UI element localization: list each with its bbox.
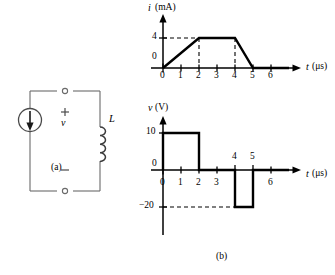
voltage-xtick-6: 6 bbox=[268, 178, 273, 188]
voltage-plot-xlabel-symbol: t bbox=[306, 169, 309, 179]
voltage-ytick-10: 10 bbox=[146, 127, 156, 137]
current-waveform bbox=[163, 38, 289, 68]
current-ytick-0: 0 bbox=[152, 52, 157, 62]
current-xtick-1: 1 bbox=[178, 71, 183, 81]
voltage-plot-ylabel-unit: (V) bbox=[155, 103, 168, 113]
voltage-xtick-3: 3 bbox=[214, 178, 219, 188]
panel-caption-b: (b) bbox=[216, 252, 227, 262]
y-axis-arrow-icon bbox=[159, 14, 166, 23]
figure-root: v L (a) bbox=[0, 0, 335, 275]
circuit-schematic bbox=[0, 75, 130, 255]
inductor-symbol bbox=[100, 127, 106, 161]
current-xtick-0: 0 bbox=[160, 71, 165, 81]
current-plot-axes bbox=[151, 14, 301, 72]
current-xtick-2: 2 bbox=[196, 71, 201, 81]
current-xtick-6: 6 bbox=[268, 71, 273, 81]
terminal-top bbox=[62, 88, 67, 93]
circuit-voltage-label: v bbox=[61, 118, 65, 128]
voltage-plot-xlabel-unit: (μs) bbox=[312, 169, 327, 179]
current-xtick-5: 5 bbox=[250, 71, 255, 81]
y-axis-arrow-icon bbox=[159, 116, 166, 125]
voltage-xtick-4: 4 bbox=[232, 152, 237, 162]
inductor-label: L bbox=[109, 114, 115, 125]
current-xtick-4: 4 bbox=[232, 71, 237, 81]
voltage-xtick-0: 0 bbox=[160, 178, 165, 188]
current-ytick-4: 4 bbox=[152, 32, 157, 42]
voltage-ytick-neg20: −20 bbox=[139, 201, 154, 211]
x-axis-arrow-icon bbox=[293, 64, 302, 71]
voltage-ytick-0: 0 bbox=[152, 159, 157, 169]
current-plot-xlabel-symbol: t bbox=[306, 62, 309, 72]
current-xtick-3: 3 bbox=[214, 71, 219, 81]
voltage-plot-ylabel-symbol: v bbox=[148, 103, 152, 113]
voltage-plot-canvas bbox=[135, 105, 335, 265]
current-plot-ylabel-unit: (mA) bbox=[155, 3, 176, 13]
terminal-bottom bbox=[62, 188, 67, 193]
current-plot-xlabel-unit: (μs) bbox=[312, 62, 327, 72]
current-source-symbol bbox=[19, 109, 42, 132]
voltage-xtick-2: 2 bbox=[196, 178, 201, 188]
x-axis-arrow-icon bbox=[293, 166, 302, 173]
current-plot-guides bbox=[163, 38, 235, 66]
voltage-xtick-5: 5 bbox=[250, 152, 255, 162]
current-plot-ylabel-symbol: i bbox=[148, 3, 151, 13]
voltage-xtick-1: 1 bbox=[178, 178, 183, 188]
panel-caption-a: (a) bbox=[51, 163, 62, 173]
